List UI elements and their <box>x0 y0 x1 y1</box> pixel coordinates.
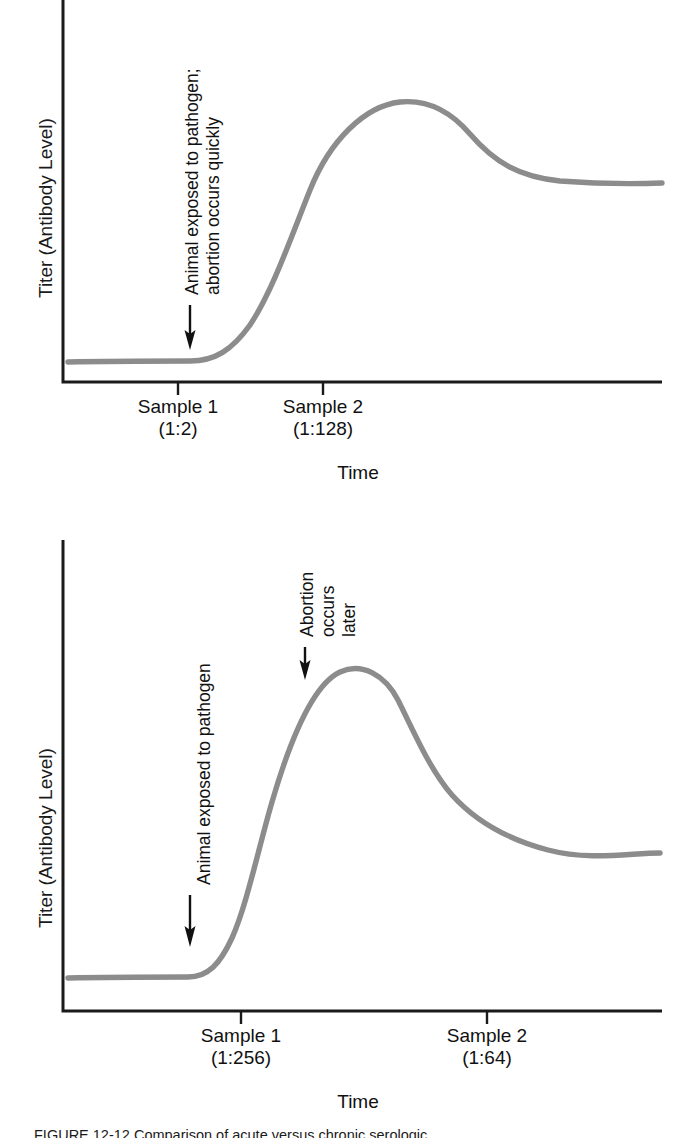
tick-label-sub: (1:128) <box>253 418 393 440</box>
figure-page: Titer (Antibody Level) Animal exposed to… <box>0 0 697 1138</box>
x-tick-label-1-top: Sample 1 (1:2) <box>108 396 248 441</box>
chart-panel-top: Titer (Antibody Level) Animal exposed to… <box>0 0 697 500</box>
down-arrow-icon <box>185 305 196 350</box>
tick-label-main: Sample 1 <box>108 396 248 418</box>
tick-label-sub: (1:64) <box>417 1047 557 1069</box>
down-arrow-icon-abortion <box>300 647 311 680</box>
tick-label-main: Sample 2 <box>417 1025 557 1047</box>
x-tick-label-2-top: Sample 2 (1:128) <box>253 396 393 441</box>
annotation-line-1: Animal exposed to pathogen <box>196 663 214 885</box>
annotation-line-2: occurs <box>320 585 338 637</box>
x-axis-label-bottom: Time <box>298 1091 418 1113</box>
antibody-titer-curve <box>68 669 660 978</box>
annotation-line-1: Abortion <box>299 572 317 637</box>
axis-lines <box>63 0 662 382</box>
abortion-annotation-line1: Abortion <box>299 572 317 637</box>
exposure-annotation-top-line2: abortion occurs quickly <box>205 117 223 295</box>
axis-lines <box>63 540 662 1011</box>
x-axis-label-top: Time <box>298 462 418 484</box>
abortion-annotation-line2: occurs <box>320 585 338 637</box>
x-tick-label-2-bottom: Sample 2 (1:64) <box>417 1025 557 1070</box>
annotation-line-2: abortion occurs quickly <box>205 117 223 295</box>
y-axis-label-top: Titer (Antibody Level) <box>36 118 55 298</box>
figure-caption: FIGURE 12-12 Comparison of acute versus … <box>34 1126 674 1138</box>
tick-label-main: Sample 1 <box>171 1025 311 1047</box>
y-axis-label-bottom: Titer (Antibody Level) <box>36 748 55 928</box>
chart-panel-bottom: Titer (Antibody Level) Animal exposed to… <box>0 520 697 1138</box>
x-tick-label-1-bottom: Sample 1 (1:256) <box>171 1025 311 1070</box>
abortion-annotation-line3: later <box>341 603 359 637</box>
annotation-line-1: Animal exposed to pathogen; <box>184 68 202 295</box>
annotation-line-3: later <box>341 603 359 637</box>
down-arrow-icon-exposure <box>185 895 196 947</box>
antibody-titer-curve <box>68 102 662 362</box>
tick-label-sub: (1:2) <box>108 418 248 440</box>
exposure-annotation-top: Animal exposed to pathogen; <box>184 68 202 295</box>
exposure-annotation-bottom: Animal exposed to pathogen <box>196 663 214 885</box>
tick-label-sub: (1:256) <box>171 1047 311 1069</box>
tick-label-main: Sample 2 <box>253 396 393 418</box>
